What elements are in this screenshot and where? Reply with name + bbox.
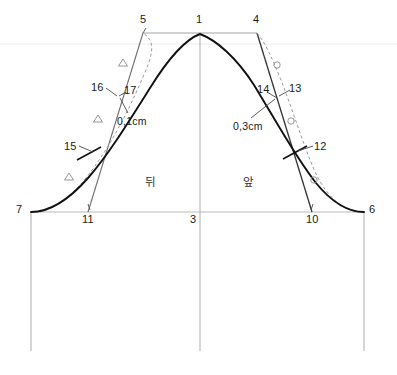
triangle-icon	[94, 115, 103, 122]
circle-icon	[274, 62, 280, 68]
point-label-6: 6	[369, 204, 375, 215]
circle-icon	[288, 118, 294, 124]
point-label-7: 7	[16, 204, 22, 215]
leader-line-16	[106, 88, 117, 96]
leader-line-15	[79, 146, 93, 152]
point-label-14: 14	[257, 84, 270, 95]
point-label-10: 10	[306, 214, 319, 225]
point-label-5: 5	[140, 14, 146, 25]
dimension-label-front-offset: 0,3cm	[233, 121, 263, 132]
triangle-icon	[119, 59, 128, 66]
triangle-icon	[65, 173, 74, 180]
region-label-back: 뒤	[145, 177, 156, 189]
point-label-12: 12	[314, 141, 327, 152]
front-construction-line	[257, 33, 312, 212]
notch-tick-15	[77, 147, 101, 160]
point-label-3: 3	[190, 214, 196, 225]
sleeve-cap-curve	[31, 34, 364, 212]
point-label-1: 1	[196, 14, 202, 25]
front-dashed-curve	[257, 33, 357, 212]
point-label-13: 13	[289, 83, 302, 94]
leader-lines	[79, 28, 313, 210]
point-label-15: 15	[64, 141, 77, 152]
point-label-16: 16	[91, 82, 104, 93]
point-label-17: 17	[124, 85, 137, 96]
pattern-diagram: 1 3 4 5 6 7 10 11 12 13 14 15 16 17 0,1c…	[0, 0, 397, 375]
pattern-drawing-canvas	[0, 0, 397, 375]
point-label-11: 11	[82, 214, 94, 225]
dimension-label-back-offset: 0,1cm	[117, 116, 147, 127]
point-label-4: 4	[253, 14, 259, 25]
front-notch-markers	[274, 62, 317, 183]
region-label-front: 앞	[243, 177, 254, 189]
leader-line-10	[311, 204, 313, 210]
